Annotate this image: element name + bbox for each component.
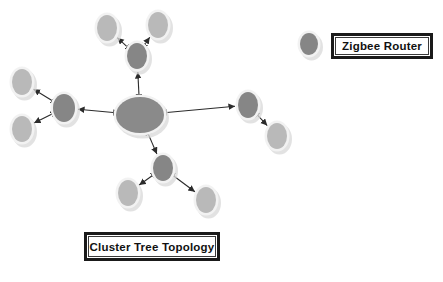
link-coordinator-router-left: [78, 109, 113, 112]
zigbee-coordinator: [114, 95, 170, 139]
link-coordinator-router-right: [167, 106, 235, 112]
end-device-top-left: [95, 13, 123, 47]
link-router-top-end-right: [145, 37, 149, 44]
topology-nodes-layer: [10, 10, 293, 219]
link-router-left-end-top: [34, 89, 52, 100]
end-device-top-right: [146, 10, 174, 44]
link-router-left-end-bottom: [34, 114, 51, 123]
zigbee-router-node-icon: [298, 31, 324, 61]
zigbee-router-bottom: [151, 153, 179, 187]
topology-caption-label: Cluster Tree Topology: [90, 241, 215, 253]
legend-icon-layer: [298, 31, 324, 61]
link-router-bottom-end-left: [139, 176, 152, 185]
zigbee-router-left: [51, 92, 81, 128]
legend-zigbee-router-box: Zigbee Router: [331, 33, 433, 59]
end-device-bottom-right: [194, 185, 222, 219]
zigbee-router-right: [236, 90, 264, 124]
link-coordinator-router-bottom: [149, 135, 157, 154]
zigbee-router-top: [125, 41, 153, 75]
end-device-left-top: [10, 67, 38, 101]
end-device-bottom-left: [116, 178, 144, 212]
topology-caption-box: Cluster Tree Topology: [84, 232, 220, 261]
legend-zigbee-router-label: Zigbee Router: [342, 40, 422, 52]
link-coordinator-router-top: [138, 72, 139, 94]
end-device-left-bottom: [10, 114, 38, 148]
link-router-bottom-end-right: [174, 176, 195, 192]
end-device-right: [265, 121, 293, 155]
